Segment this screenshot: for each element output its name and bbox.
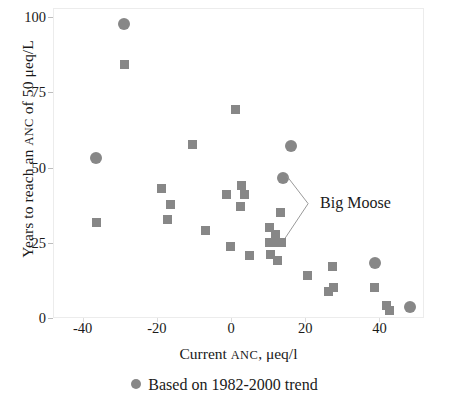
legend: Based on 1982-2000 trend — [0, 375, 449, 394]
x-tick-label: 20 — [282, 320, 328, 337]
legend-circle-icon — [131, 379, 141, 389]
data-point-square — [231, 105, 240, 114]
x-tick-label: 40 — [356, 320, 402, 337]
data-point-square — [329, 283, 338, 292]
data-point-square — [222, 190, 231, 199]
legend-entry-label: Based on 1982-2000 trend — [148, 376, 317, 393]
x-axis-label-pre: Current — [180, 345, 231, 362]
y-tick-label: 0 — [12, 310, 46, 327]
y-axis-label: Years to reach an ANC of 50 μeq/L — [19, 0, 37, 299]
x-axis-label-anc: ANC — [231, 348, 258, 362]
x-tick-label: -40 — [60, 320, 106, 337]
data-point-square — [370, 283, 379, 292]
data-point-circle — [404, 301, 416, 313]
data-point-square — [166, 200, 175, 209]
x-axis-label-post: , μeq/l — [258, 345, 297, 362]
annotation-big-moose: Big Moose — [320, 194, 391, 212]
data-point-square — [188, 140, 197, 149]
x-tick-label: 0 — [208, 320, 254, 337]
data-point-circle — [90, 152, 102, 164]
data-point-square — [277, 238, 286, 247]
data-point-square — [226, 242, 235, 251]
data-point-square — [385, 306, 394, 315]
x-tick-mark — [305, 318, 306, 322]
data-point-square — [236, 202, 245, 211]
data-point-square — [245, 251, 254, 260]
y-tick-label: 25 — [12, 234, 46, 251]
x-tick-mark — [379, 318, 380, 322]
data-point-circle — [277, 172, 289, 184]
data-point-circle — [285, 140, 297, 152]
data-point-square — [163, 215, 172, 224]
data-point-square — [240, 190, 249, 199]
data-point-square — [157, 184, 166, 193]
x-tick-label: -20 — [134, 320, 180, 337]
x-tick-mark — [83, 318, 84, 322]
data-point-square — [237, 181, 246, 190]
data-point-square — [120, 60, 129, 69]
data-point-circle — [118, 18, 130, 30]
y-tick-mark — [48, 318, 53, 319]
scatter-plot-figure: Years to reach an ANC of 50 μeq/L Curren… — [0, 0, 449, 408]
data-point-square — [273, 256, 282, 265]
x-tick-mark — [231, 318, 232, 322]
y-tick-label: 75 — [12, 84, 46, 101]
x-axis-label: Current ANC, μeq/l — [53, 345, 424, 363]
data-point-square — [92, 218, 101, 227]
y-axis-label-anc: ANC — [22, 118, 36, 145]
y-tick-label: 100 — [12, 9, 46, 26]
data-point-square — [201, 226, 210, 235]
data-point-circle — [369, 257, 381, 269]
y-axis-label-post: of 50 μeq/L — [19, 40, 36, 118]
data-point-square — [276, 208, 285, 217]
x-tick-mark — [157, 318, 158, 322]
data-point-square — [303, 271, 312, 280]
y-tick-label: 50 — [12, 159, 46, 176]
data-point-square — [328, 262, 337, 271]
plot-area — [53, 8, 424, 318]
